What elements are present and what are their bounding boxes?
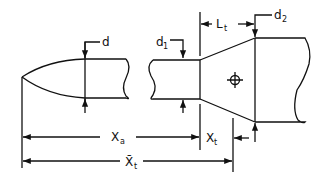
flare-body-diagram: d d 1 d 2 L t X a X t X̄ t (0, 0, 324, 181)
label-d2-sub: 2 (282, 15, 287, 24)
label-Lt-sub: t (224, 24, 227, 33)
aft-body (255, 38, 310, 123)
label-d: d (102, 35, 110, 49)
label-Lt: L (216, 17, 223, 31)
break-curve-mid (149, 60, 155, 99)
label-Xt-sub: t (214, 138, 217, 147)
break-curve-forebody (124, 59, 130, 99)
label-Xa: X (111, 130, 119, 144)
label-Xa-sub: a (120, 137, 125, 146)
label-Xt: X (206, 131, 214, 145)
nose-ogive (22, 59, 126, 77)
label-d2: d (274, 8, 282, 22)
cg-crosshair-icon (227, 72, 243, 88)
label-d1-sub: 1 (163, 42, 168, 51)
label-Xbar-t: X̄ (125, 155, 133, 169)
label-Xbar-t-sub: t (134, 162, 137, 171)
